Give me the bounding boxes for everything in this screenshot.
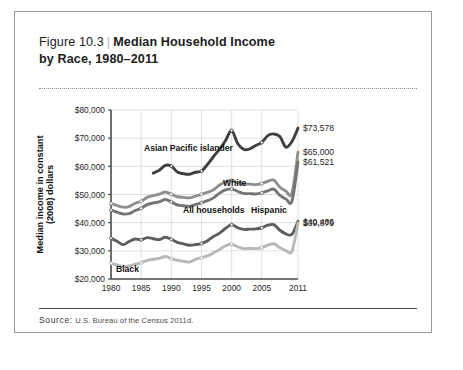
y-axis-tick-labels: $20,000$30,000$40,000$50,000$60,000$70,0… — [75, 105, 111, 284]
svg-text:Median income in constant(2008: Median income in constant(2008) dollars — [35, 136, 56, 254]
svg-text:1985: 1985 — [132, 283, 151, 293]
svg-text:$60,000: $60,000 — [75, 162, 106, 172]
x-axis-tick-labels: 1980198519901995200020052011 — [102, 283, 308, 293]
svg-text:Black: Black — [116, 264, 139, 274]
figure-number: Figure 10.3 — [39, 35, 104, 49]
svg-text:$61,521: $61,521 — [303, 157, 334, 167]
figure-title-main: Median Household Income — [113, 35, 275, 49]
figure-title-line-1: Figure 10.3|Median Household Income — [39, 34, 379, 51]
dotted-divider — [39, 88, 417, 89]
svg-text:$39,879: $39,879 — [303, 218, 334, 228]
svg-text:All households: All households — [183, 205, 245, 215]
title-separator: | — [104, 35, 113, 49]
svg-text:$73,578: $73,578 — [303, 123, 334, 133]
figure-title-line-2: by Race, 1980–2011 — [39, 51, 379, 68]
y-axis-title: Median income in constant(2008) dollars — [35, 136, 56, 254]
svg-text:$40,000: $40,000 — [75, 218, 106, 228]
svg-text:2000: 2000 — [222, 283, 241, 293]
svg-text:Asian Pacific islander: Asian Pacific islander — [144, 143, 233, 153]
source-divider — [39, 308, 417, 309]
svg-text:2005: 2005 — [252, 283, 271, 293]
svg-text:1995: 1995 — [192, 283, 211, 293]
svg-text:Hispanic: Hispanic — [251, 205, 287, 215]
svg-text:1980: 1980 — [102, 283, 121, 293]
svg-text:$80,000: $80,000 — [75, 105, 106, 115]
svg-text:1990: 1990 — [162, 283, 181, 293]
chart-area: $20,000$30,000$40,000$50,000$60,000$70,0… — [15, 96, 433, 301]
svg-text:$50,000: $50,000 — [75, 190, 106, 200]
source-text: U.S. Bureau of the Census 2011d. — [75, 316, 193, 325]
svg-text:2011: 2011 — [289, 283, 307, 293]
svg-text:$70,000: $70,000 — [75, 133, 106, 143]
svg-text:$65,000: $65,000 — [303, 147, 334, 157]
source-line: Source: U.S. Bureau of the Census 2011d. — [39, 315, 193, 325]
svg-text:White: White — [223, 178, 247, 188]
figure-frame: Figure 10.3|Median Household Income by R… — [14, 11, 432, 333]
income-line-chart: $20,000$30,000$40,000$50,000$60,000$70,0… — [15, 96, 433, 301]
end-value-labels: $73,578$65,000$61,521$40,466$39,879 — [303, 123, 334, 228]
figure-title-block: Figure 10.3|Median Household Income by R… — [39, 34, 379, 67]
source-label: Source: — [39, 315, 73, 325]
svg-text:$30,000: $30,000 — [75, 246, 106, 256]
